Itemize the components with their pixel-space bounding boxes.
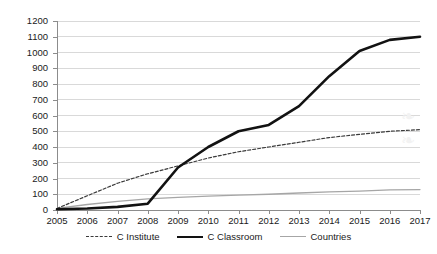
legend-swatch-dashed-icon bbox=[86, 236, 112, 237]
series-line-c-institute bbox=[57, 130, 420, 209]
legend-label-countries: Countries bbox=[311, 232, 352, 242]
legend-item-c-classroom[interactable]: C Classroom bbox=[177, 232, 263, 242]
legend-label-c-classroom: C Classroom bbox=[208, 232, 263, 242]
series-line-c-classroom bbox=[57, 37, 420, 209]
series-line-countries bbox=[57, 190, 420, 209]
legend-swatch-bold-icon bbox=[177, 236, 203, 238]
line-chart: 0100200300400500600700800900100011001200… bbox=[0, 0, 437, 254]
legend-item-c-institute[interactable]: C Institute bbox=[86, 232, 160, 242]
chart-legend: C Institute C Classroom Countries bbox=[0, 232, 437, 242]
series-layer bbox=[0, 0, 437, 254]
legend-swatch-thin-icon bbox=[280, 236, 306, 237]
legend-item-countries[interactable]: Countries bbox=[280, 232, 352, 242]
legend-label-c-institute: C Institute bbox=[117, 232, 160, 242]
